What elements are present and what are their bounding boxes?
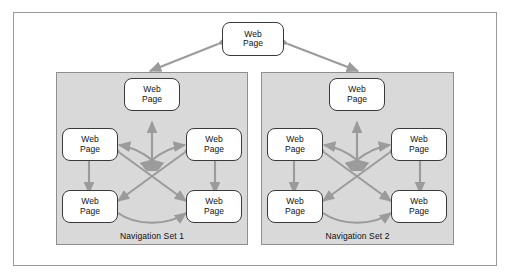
node-set2-top[interactable]: Web Page bbox=[329, 78, 385, 111]
node-label-line2: Page bbox=[409, 207, 429, 216]
node-label-line2: Page bbox=[409, 145, 429, 154]
node-set1-bottom-left[interactable]: Web Page bbox=[62, 190, 118, 223]
node-set2-bottom-right[interactable]: Web Page bbox=[391, 190, 447, 223]
node-set2-mid-left[interactable]: Web Page bbox=[267, 128, 323, 161]
node-set1-mid-left[interactable]: Web Page bbox=[62, 128, 118, 161]
node-label-line2: Page bbox=[142, 95, 162, 104]
node-label-line2: Page bbox=[243, 39, 263, 48]
node-set1-top[interactable]: Web Page bbox=[124, 78, 180, 111]
node-label-line2: Page bbox=[204, 207, 224, 216]
node-label-line2: Page bbox=[347, 95, 367, 104]
node-set1-bottom-right[interactable]: Web Page bbox=[186, 190, 242, 223]
node-set1-mid-right[interactable]: Web Page bbox=[186, 128, 242, 161]
node-label-line2: Page bbox=[80, 145, 100, 154]
node-set2-bottom-left[interactable]: Web Page bbox=[267, 190, 323, 223]
node-top-web-page[interactable]: Web Page bbox=[222, 22, 284, 56]
panel-label-navigation-set-1: Navigation Set 1 bbox=[56, 231, 248, 241]
panel-label-navigation-set-2: Navigation Set 2 bbox=[261, 231, 454, 241]
node-label-line2: Page bbox=[285, 207, 305, 216]
node-set2-mid-right[interactable]: Web Page bbox=[391, 128, 447, 161]
node-label-line2: Page bbox=[285, 145, 305, 154]
node-label-line2: Page bbox=[204, 145, 224, 154]
node-label-line2: Page bbox=[80, 207, 100, 216]
diagram-canvas: Web Page Web Page Web Page Web Page Web … bbox=[0, 0, 510, 278]
